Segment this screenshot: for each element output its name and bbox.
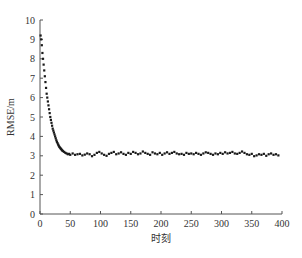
x-tick-label: 350	[244, 218, 259, 229]
data-point	[217, 153, 219, 155]
data-point	[110, 152, 112, 154]
data-point	[86, 152, 88, 154]
data-point	[200, 154, 202, 156]
data-point	[246, 153, 248, 155]
data-point	[161, 154, 163, 156]
data-point	[76, 153, 78, 155]
data-point	[185, 152, 187, 154]
data-point	[241, 150, 243, 152]
data-point	[207, 152, 209, 154]
data-point	[255, 154, 257, 156]
data-point	[69, 154, 71, 156]
data-point	[144, 152, 146, 154]
y-tick-label: 8	[30, 53, 35, 64]
data-point	[49, 116, 51, 118]
data-point	[202, 152, 204, 154]
data-point	[260, 154, 262, 156]
data-point	[91, 155, 93, 157]
data-point	[89, 153, 91, 155]
data-point	[243, 152, 245, 154]
data-point	[197, 153, 199, 155]
data-point	[43, 69, 45, 71]
data-point	[103, 154, 105, 156]
x-tick-label: 250	[184, 218, 199, 229]
data-point	[224, 151, 226, 153]
data-point	[93, 154, 95, 156]
y-axis-title: RMSE/m	[5, 98, 16, 136]
data-point	[210, 153, 212, 155]
data-point	[190, 152, 192, 154]
data-point	[49, 112, 51, 114]
x-tick-label: 0	[38, 218, 43, 229]
plot-area: 012345678910 050100150200250300350400	[25, 15, 290, 230]
data-point	[159, 152, 161, 154]
data-point	[183, 154, 185, 156]
data-point	[253, 155, 255, 157]
data-point	[51, 125, 53, 127]
data-point	[113, 151, 115, 153]
data-point	[125, 154, 127, 156]
data-point	[43, 64, 45, 66]
data-point	[48, 108, 50, 110]
data-point	[40, 34, 42, 36]
data-point	[81, 154, 83, 156]
data-point	[205, 151, 207, 153]
data-point	[258, 153, 260, 155]
data-point	[130, 153, 132, 155]
data-point	[47, 104, 49, 106]
data-point	[47, 100, 49, 102]
data-point	[105, 155, 107, 157]
data-point	[50, 119, 52, 121]
y-tick-label: 3	[30, 150, 35, 161]
data-point	[46, 93, 48, 95]
data-point	[272, 154, 274, 156]
data-point	[251, 153, 253, 155]
data-point	[120, 151, 122, 153]
data-point	[166, 151, 168, 153]
data-point	[137, 153, 139, 155]
y-tick-label: 10	[25, 15, 35, 26]
x-tick-label: 400	[275, 218, 290, 229]
data-point	[79, 153, 81, 155]
data-point	[134, 152, 136, 154]
x-axis-title: 时刻	[151, 232, 171, 244]
data-point	[265, 155, 267, 157]
data-point	[176, 152, 178, 154]
data-point	[53, 133, 55, 135]
data-point	[115, 153, 117, 155]
data-point	[154, 152, 156, 154]
data-point	[132, 151, 134, 153]
data-point	[219, 152, 221, 154]
data-point	[277, 154, 279, 156]
data-point	[53, 131, 55, 133]
data-point	[44, 81, 46, 83]
data-point	[212, 154, 214, 156]
data-point	[84, 154, 86, 156]
data-point	[214, 152, 216, 154]
data-point	[122, 153, 124, 155]
data-point	[118, 152, 120, 154]
y-tick-label: 7	[30, 73, 35, 84]
data-point	[42, 58, 44, 60]
y-tick-label: 9	[30, 34, 35, 45]
data-point	[142, 150, 144, 152]
data-point	[46, 97, 48, 99]
data-point	[45, 87, 47, 89]
data-point	[222, 153, 224, 155]
y-tick-label: 6	[30, 92, 35, 103]
data-point	[54, 135, 56, 137]
data-point	[188, 153, 190, 155]
data-point	[263, 153, 265, 155]
data-point	[195, 152, 197, 154]
y-tick-label: 4	[30, 131, 35, 142]
data-point	[127, 152, 129, 154]
data-point	[173, 151, 175, 153]
y-tick-label: 2	[30, 170, 35, 181]
x-tick-label: 100	[93, 218, 108, 229]
y-tick-label: 0	[30, 209, 35, 220]
data-point	[41, 52, 43, 54]
data-point	[108, 153, 110, 155]
data-point	[234, 152, 236, 154]
data-point	[96, 152, 98, 154]
data-point	[248, 154, 250, 156]
